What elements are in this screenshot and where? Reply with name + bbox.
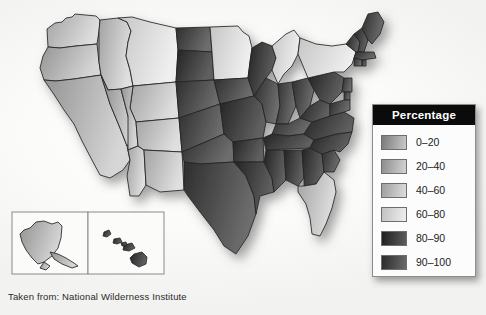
legend-label-80-90: 80–90 [416,232,445,244]
legend-swatch-0-20 [381,135,407,150]
state-ND [176,27,212,52]
state-MO [220,96,266,142]
legend-swatch-20-40 [381,159,407,174]
figure-page: Percentage 0–20 20–40 40–60 60–80 80– [0,0,486,315]
legend-item-40-60: 40–60 [373,178,475,202]
source-caption: Taken from: National Wilderness Institut… [8,291,187,302]
legend-title: Percentage [392,109,456,121]
legend-swatch-80-90 [381,231,407,246]
legend-label-40-60: 40–60 [416,184,445,196]
legend-item-0-20: 0–20 [373,130,475,154]
state-AR [233,138,264,162]
state-TN [263,134,314,150]
state-DE [344,92,350,100]
legend-label-60-80: 60–80 [416,208,445,220]
legend-label-90-100: 90–100 [416,256,451,268]
legend-items: 0–20 20–40 40–60 60–80 80–90 90–100 [373,125,475,274]
state-WA [47,14,100,48]
state-WY [130,82,179,122]
state-RI [362,60,366,66]
state-SD [176,50,214,82]
legend-label-0-20: 0–20 [416,136,439,148]
legend-item-80-90: 80–90 [373,226,475,250]
state-NJ [342,78,352,92]
legend-swatch-60-80 [381,207,407,222]
state-NM [144,150,184,192]
state-MN [210,26,252,80]
state-AL [284,150,304,186]
legend-label-20-40: 20–40 [416,160,445,172]
state-OR [40,44,101,81]
legend-item-20-40: 20–40 [373,154,475,178]
legend-item-90-100: 90–100 [373,250,475,274]
legend-item-60-80: 60–80 [373,202,475,226]
legend-swatch-90-100 [381,255,407,270]
state-TX [184,162,256,254]
insets-group [12,212,164,274]
state-CO [136,118,182,152]
legend-swatch-40-60 [381,183,407,198]
state-HI-molokai [121,242,127,246]
map-legend: Percentage 0–20 20–40 40–60 60–80 80– [372,104,476,277]
state-AZ [127,146,146,196]
state-MI [272,30,300,84]
legend-header: Percentage [373,105,475,125]
